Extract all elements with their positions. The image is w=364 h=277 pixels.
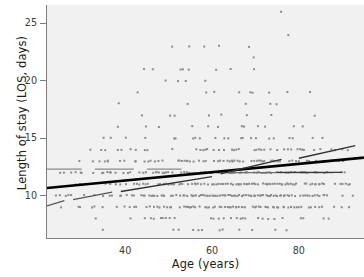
data-point (231, 195, 233, 197)
data-point (322, 137, 324, 139)
data-point (125, 183, 127, 185)
data-point (287, 34, 289, 36)
data-point (92, 160, 94, 162)
data-point (171, 171, 173, 173)
data-point (60, 206, 62, 208)
data-point (197, 183, 199, 185)
data-point (170, 206, 172, 208)
data-point (250, 160, 252, 162)
data-point (161, 160, 163, 162)
data-point (227, 160, 229, 162)
y-tick-label-25: 25 (8, 17, 37, 28)
x-tick-95 (0, 63, 1, 67)
data-point (117, 149, 119, 151)
data-point (286, 229, 288, 231)
data-point (290, 206, 292, 208)
data-point (79, 206, 81, 208)
data-point (202, 149, 204, 151)
data-point (152, 172, 154, 174)
data-point (291, 160, 293, 162)
data-point (223, 137, 225, 139)
data-point (235, 183, 237, 185)
data-point (165, 217, 167, 219)
data-point (221, 194, 223, 196)
data-point (246, 114, 248, 116)
data-point (310, 206, 312, 208)
scatter-plot-figure: 10152025406080 Length of stay (LOS, days… (0, 0, 364, 277)
data-point (313, 149, 315, 151)
data-point (334, 183, 336, 185)
data-point (106, 171, 108, 173)
data-point (178, 229, 180, 231)
data-point (194, 206, 196, 208)
data-point (107, 160, 109, 162)
data-point (256, 149, 258, 151)
data-point (111, 195, 113, 197)
data-point (308, 195, 310, 197)
data-point (188, 69, 190, 71)
data-point (201, 229, 203, 231)
data-point (135, 149, 137, 151)
data-point (294, 195, 296, 197)
data-point (144, 217, 146, 219)
data-point (199, 149, 201, 151)
data-point (150, 160, 152, 162)
data-point (220, 206, 222, 208)
data-point (258, 148, 260, 150)
data-point (209, 195, 211, 197)
data-point (280, 11, 282, 13)
data-point (246, 183, 248, 185)
data-point (203, 46, 205, 48)
data-point (254, 195, 256, 197)
data-point (315, 183, 317, 185)
data-point (255, 206, 257, 208)
data-point (231, 149, 233, 151)
data-point (138, 171, 140, 173)
data-point (318, 195, 320, 197)
data-point (224, 206, 226, 208)
data-point (341, 183, 343, 185)
data-point (137, 91, 139, 93)
data-point (133, 194, 135, 196)
data-point (179, 206, 181, 208)
data-point (250, 195, 252, 197)
data-point (141, 114, 143, 116)
data-point (140, 194, 142, 196)
data-point (344, 171, 346, 173)
data-point (323, 194, 325, 196)
data-point (227, 137, 229, 139)
data-point (119, 160, 121, 162)
data-point (232, 184, 234, 186)
data-point (295, 160, 297, 162)
data-point (59, 172, 61, 174)
data-point (309, 91, 311, 93)
data-point (195, 183, 197, 185)
data-point (215, 69, 217, 71)
data-point (276, 149, 278, 151)
data-point (279, 183, 281, 185)
data-point (174, 115, 176, 117)
data-point (224, 194, 226, 196)
data-point (241, 125, 243, 127)
data-point (122, 172, 124, 174)
data-point (290, 148, 292, 150)
y-tick-25 (40, 23, 46, 24)
data-point (230, 206, 232, 208)
data-point (104, 149, 106, 151)
data-point (166, 206, 168, 208)
data-point (288, 137, 290, 139)
data-point (153, 195, 155, 197)
data-point (163, 206, 165, 208)
data-point (130, 217, 132, 219)
data-point (205, 160, 207, 162)
data-point (194, 137, 196, 139)
data-point (260, 206, 262, 208)
data-point (243, 183, 245, 185)
data-point (225, 183, 227, 185)
data-point (218, 149, 220, 151)
data-point (295, 183, 297, 185)
data-point (219, 160, 221, 162)
data-point (342, 195, 344, 197)
data-point (222, 183, 224, 185)
y-axis-line (46, 5, 47, 238)
